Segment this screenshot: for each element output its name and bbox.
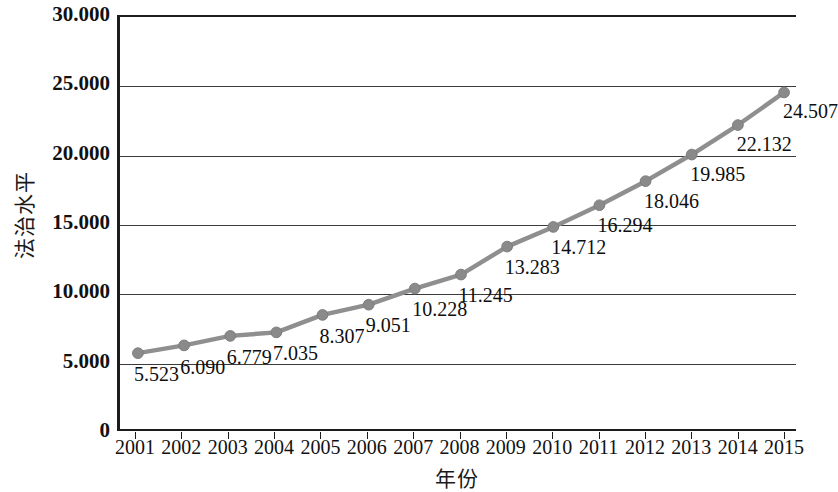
data-point-label: 24.507 [783,101,838,121]
data-point-marker [456,269,467,280]
data-point-label: 19.985 [690,164,745,184]
data-point-marker [733,120,744,131]
data-point-marker [409,283,420,294]
data-point-marker [502,241,513,252]
y-axis-tick-labels: 05.00010.00015.00020.00025.00030.000 [18,0,110,486]
data-point-label: 14.712 [551,237,606,257]
data-point-label: 8.307 [319,326,364,346]
data-point-label: 11.245 [459,285,513,305]
data-point-marker [594,200,605,211]
data-point-label: 6.779 [227,347,272,367]
y-axis-tick-label: 30.000 [20,4,110,25]
data-point-marker [363,299,374,310]
y-axis-tick-label: 20.000 [20,143,110,164]
x-axis-tick-label: 2015 [754,437,814,457]
data-point-label: 7.035 [273,343,318,363]
data-point-marker [640,176,651,187]
data-point-marker [271,327,282,338]
data-point-marker [548,222,559,233]
data-point-marker [686,149,697,160]
data-point-label: 18.046 [644,191,699,211]
data-point-marker [225,331,236,342]
y-axis-tick-label: 10.000 [20,281,110,302]
y-axis-tick-label: 25.000 [20,73,110,94]
y-axis-tick-label: 0 [20,420,110,441]
data-point-label: 22.132 [737,134,792,154]
data-point-label: 13.283 [505,257,560,277]
y-axis-tick-label: 5.000 [20,351,110,372]
x-axis-title: 年份 [117,462,796,492]
data-point-marker [779,87,790,98]
data-point-label: 16.294 [598,215,653,235]
data-point-marker [133,348,144,359]
plot-area: 5.5236.0906.7797.0358.3079.05110.22811.2… [117,15,796,431]
y-axis-tick-label: 15.000 [20,212,110,233]
data-point-marker [179,340,190,351]
data-point-label: 6.090 [180,357,225,377]
data-point-label: 9.051 [366,315,411,335]
x-axis-tick-labels: 2001200220032004200520062007200820092010… [117,437,796,465]
data-point-label: 5.523 [134,364,179,384]
data-point-marker [317,310,328,321]
